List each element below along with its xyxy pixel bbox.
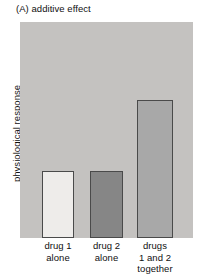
x-tick-label-line: together xyxy=(125,263,185,275)
x-tick-label-line: 1 and 2 xyxy=(125,252,185,264)
x-tick-label-line: drugs xyxy=(125,240,185,252)
x-tick-label-drugs-1-and-2-together: drugs1 and 2together xyxy=(125,240,185,275)
bar-drug-2-alone xyxy=(90,171,123,238)
figure-title: (A) additive effect xyxy=(16,3,91,15)
bar-drugs-1-and-2-together xyxy=(137,100,173,238)
bar-drug-1-alone xyxy=(42,171,74,238)
plot-area xyxy=(20,22,193,238)
x-axis-labels: drug 1alone drug 2alone drugs1 and 2toge… xyxy=(20,240,193,277)
